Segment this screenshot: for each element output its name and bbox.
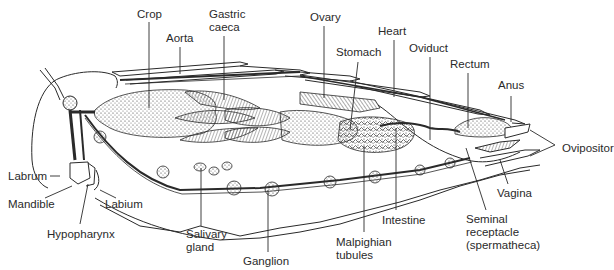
label-vagina: Vagina [497,187,532,200]
label-salivary-gland: Salivary gland [186,228,227,254]
ganglion-7 [415,165,425,175]
ganglion-3 [227,181,241,195]
label-malpighian-tubules: Malpighian tubules [336,236,392,262]
label-seminal-receptacle: Seminal receptacle (spermatheca) [466,213,540,252]
salivary-gland-organ [194,162,232,175]
ganglion-4 [265,182,279,196]
rectum-organ [455,118,511,137]
label-ganglion: Ganglion [243,255,289,268]
ganglion-2 [157,166,169,178]
label-mandible: Mandible [8,198,55,211]
label-rectum: Rectum [450,58,490,71]
label-crop: Crop [137,8,162,21]
label-heart: Heart [378,25,406,38]
label-ovipositor: Ovipositor [562,142,614,155]
ganglion-5 [324,176,336,188]
label-labrum: Labrum [8,170,47,183]
ganglion-6 [369,171,381,183]
ovary-organ [300,92,380,112]
ganglion-1 [94,131,106,143]
label-hypopharynx: Hypopharynx [47,228,115,241]
label-aorta: Aorta [166,32,194,45]
label-labium: Labium [105,198,143,211]
body-outline [32,62,540,240]
ganglion-8 [445,158,455,168]
label-anus: Anus [498,79,524,92]
label-intestine: Intestine [382,214,425,227]
label-gastric-caeca: Gastric caeca [209,8,245,34]
label-stomach: Stomach [336,46,381,59]
label-ovary: Ovary [310,11,341,24]
mouthparts [70,110,99,190]
label-oviduct: Oviduct [409,42,448,55]
